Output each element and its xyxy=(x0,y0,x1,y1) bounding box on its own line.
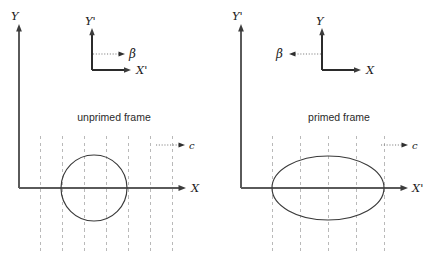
light-speed-arrow-primed xyxy=(381,143,408,148)
main-axis-x-unprimed xyxy=(19,185,186,191)
light-speed-arrow-unprimed xyxy=(156,143,185,148)
relativity-frames-figure: Y X c Y' X' xyxy=(0,0,437,263)
main-axis-x-primed xyxy=(241,185,408,191)
x-axis-arrowhead xyxy=(401,185,409,191)
velocity-label: β xyxy=(275,47,283,61)
y-axis-arrowhead xyxy=(238,24,244,32)
inset-y-axis-label: Y xyxy=(316,14,325,28)
panel-primed: Y' X' c Y X xyxy=(232,9,423,252)
light-speed-label: c xyxy=(189,140,195,151)
inset-x-axis-arrowhead xyxy=(354,67,361,72)
panel-unprimed: Y X c Y' X' xyxy=(11,9,200,252)
main-axis-y-primed xyxy=(238,24,244,188)
x-axis-label: X xyxy=(190,181,200,195)
y-axis-arrowhead xyxy=(16,24,22,32)
y-axis-label: Y' xyxy=(232,9,243,23)
velocity-arrow-unprimed xyxy=(93,52,125,57)
diagram-canvas: Y X c Y' X' xyxy=(0,0,437,263)
inset-y-axis-label: Y' xyxy=(85,14,96,28)
panel-caption-primed: primed frame xyxy=(308,111,370,123)
inset-axes-unprimed xyxy=(89,28,131,73)
c-arrowhead xyxy=(402,143,409,148)
inset-y-axis-arrowhead xyxy=(319,28,324,35)
inset-x-axis-arrowhead xyxy=(124,67,131,72)
y-axis-label: Y xyxy=(11,9,20,23)
gridlines-primed xyxy=(272,136,384,252)
gridlines-unprimed xyxy=(40,136,172,252)
panel-caption-unprimed: unprimed frame xyxy=(77,111,151,123)
beta-arrowhead xyxy=(289,52,296,57)
c-arrowhead xyxy=(179,143,186,148)
beta-arrowhead xyxy=(119,52,126,57)
inset-y-axis-arrowhead xyxy=(89,28,94,35)
inset-x-axis-label: X' xyxy=(135,63,147,77)
light-speed-label: c xyxy=(412,140,418,151)
main-axis-y-unprimed xyxy=(16,24,22,188)
inset-x-axis-label: X xyxy=(365,63,375,77)
velocity-label: β xyxy=(128,47,136,61)
velocity-arrow-primed xyxy=(289,52,321,57)
x-axis-arrowhead xyxy=(179,185,187,191)
inset-axes-primed xyxy=(319,28,361,73)
x-axis-label: X' xyxy=(411,181,423,195)
